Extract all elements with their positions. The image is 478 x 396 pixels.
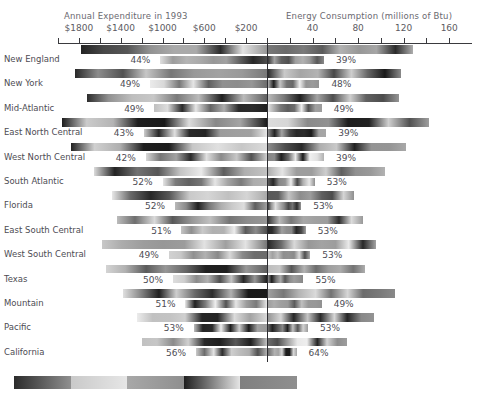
bar-right-upper (267, 191, 354, 200)
table-row: New York49%48% (0, 68, 478, 92)
bar-left-lower (173, 275, 267, 283)
legend-color-scale (14, 376, 297, 389)
bar-left-lower (181, 226, 267, 234)
bar-left-lower (146, 153, 267, 161)
bar-right-lower (267, 104, 322, 112)
bar-right-lower (267, 348, 297, 356)
table-row: California56%64% (0, 337, 478, 361)
bar-left-lower (175, 202, 267, 210)
left-percent-label: 49% (139, 250, 159, 260)
left-tick-1800-label: $1800 (65, 23, 94, 33)
bar-left-lower (144, 129, 267, 137)
bar-left-lower (196, 348, 267, 356)
bar-right-upper (267, 240, 376, 249)
left-percent-label: 49% (124, 104, 144, 114)
right-percent-label: 53% (313, 201, 333, 211)
row-label-texas: Texas (4, 274, 28, 284)
legend-gradient (14, 376, 297, 389)
bar-right-upper (267, 94, 399, 103)
bar-right-upper (267, 313, 374, 322)
table-row: East North Central43%39% (0, 117, 478, 141)
bar-right-upper (267, 289, 395, 298)
bar-left-lower (194, 324, 267, 332)
bar-right-upper (267, 118, 429, 127)
table-row: New England44%39% (0, 44, 478, 68)
bar-right-upper (267, 143, 406, 152)
bar-right-upper (267, 265, 365, 274)
right-percent-label: 49% (334, 299, 354, 309)
bar-right-upper (267, 338, 347, 347)
bar-left-upper (81, 45, 267, 54)
table-row: Florida52%53% (0, 190, 478, 214)
bar-left-upper (62, 118, 267, 127)
left-percent-label: 43% (114, 128, 134, 138)
bar-left-upper (75, 69, 267, 78)
row-label-east-south-central: East South Central (4, 225, 83, 235)
right-tick-120-label: 120 (395, 23, 412, 33)
bar-right-lower (267, 324, 308, 332)
right-percent-label: 53% (327, 177, 347, 187)
right-axis-title: Energy Consumption (millions of Btu) (286, 11, 452, 21)
bar-left-upper (102, 240, 267, 249)
bar-right-lower (267, 129, 326, 137)
bar-left-upper (117, 216, 267, 225)
bar-left-upper (87, 94, 267, 103)
row-label-west-south-central: West South Central (4, 249, 86, 259)
bar-left-lower (154, 104, 267, 112)
row-label-mountain: Mountain (4, 298, 44, 308)
bar-right-lower (267, 56, 324, 64)
bar-left-upper (94, 167, 267, 176)
left-percent-label: 53% (164, 323, 184, 333)
right-percent-label: 48% (331, 79, 351, 89)
bar-left-lower (160, 56, 267, 64)
table-row: West North Central42%39% (0, 142, 478, 166)
right-tick-160-label: 160 (441, 23, 458, 33)
left-percent-label: 49% (120, 79, 140, 89)
row-label-new-york: New York (4, 78, 43, 88)
table-row: Mid-Atlantic49%49% (0, 93, 478, 117)
left-percent-label: 51% (151, 226, 171, 236)
left-percent-label: 56% (166, 348, 186, 358)
row-label-new-england: New England (4, 54, 60, 64)
bar-right-lower (267, 300, 322, 308)
bar-right-lower (267, 202, 301, 210)
row-label-pacific: Pacific (4, 322, 31, 332)
right-percent-label: 39% (338, 128, 358, 138)
bar-left-lower (150, 80, 267, 88)
center-axis-line (267, 44, 268, 362)
left-percent-label: 42% (116, 153, 136, 163)
row-label-east-north-central: East North Central (4, 127, 82, 137)
left-percent-label: 50% (143, 275, 163, 285)
row-label-florida: Florida (4, 200, 33, 210)
right-percent-label: 49% (334, 104, 354, 114)
right-percent-label: 39% (336, 55, 356, 65)
right-percent-label: 53% (318, 226, 338, 236)
left-tick-600-label: $600 (193, 23, 216, 33)
bar-left-upper (106, 265, 267, 274)
left-percent-label: 51% (155, 299, 175, 309)
bar-right-lower (267, 226, 306, 234)
right-tick-80-label: 80 (352, 23, 363, 33)
bar-left-lower (169, 251, 267, 259)
row-label-south-atlantic: South Atlantic (4, 176, 64, 186)
bar-left-upper (142, 338, 267, 347)
bar-left-upper (137, 313, 267, 322)
row-label-california: California (4, 347, 44, 357)
row-label-mid-atlantic: Mid-Atlantic (4, 103, 54, 113)
left-percent-label: 44% (130, 55, 150, 65)
left-percent-label: 52% (145, 201, 165, 211)
bar-right-upper (267, 216, 363, 225)
bar-right-upper (267, 45, 413, 54)
right-percent-label: 64% (309, 348, 329, 358)
right-percent-label: 53% (322, 250, 342, 260)
bar-right-lower (267, 251, 310, 259)
bar-left-upper (112, 191, 267, 200)
bar-left-upper (71, 143, 267, 152)
table-row: South Atlantic52%53% (0, 166, 478, 190)
right-percent-label: 53% (320, 323, 340, 333)
bar-left-upper (123, 289, 267, 298)
bar-right-upper (267, 69, 401, 78)
row-label-west-north-central: West North Central (4, 152, 85, 162)
bar-right-lower (267, 275, 303, 283)
bar-right-upper (267, 167, 385, 176)
